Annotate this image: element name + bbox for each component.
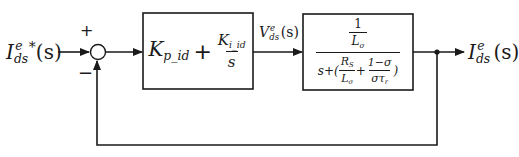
plant-numerator: 1 Lσ [327, 17, 388, 52]
voltage-symbol: V [259, 24, 269, 40]
voltage-subscript: ds [269, 32, 279, 42]
input-star: * [29, 39, 36, 55]
kp-subscript: p_id [163, 48, 189, 63]
plant-den-s-plus: s+( [318, 64, 339, 78]
controller-plus: + [193, 39, 211, 64]
plant-den-plus: + [356, 64, 366, 78]
one-over-L-sigma: 1 Lσ [349, 17, 366, 50]
output-arg: (s) [494, 40, 519, 64]
plant-den-R: R [341, 55, 349, 68]
ki-numerator: Ki_id [216, 31, 248, 51]
plant-den-tau-sub: r [385, 78, 388, 86]
minus-sign: − [78, 64, 93, 82]
voltage-signal-label: Vdse(s) [259, 24, 299, 42]
ki-subscript: i_id [229, 39, 246, 50]
input-superscript: e [15, 38, 22, 53]
kp-symbol: K [148, 37, 163, 61]
plant-block: 1 Lσ s+( RS Lσ + 1−σ στr ) [304, 15, 412, 89]
plant-den-R-sub: S [349, 61, 354, 69]
kp-term: Kp_id [148, 39, 189, 63]
summing-junction [91, 45, 106, 60]
ki-symbol: K [218, 31, 229, 49]
plus-sign: + [80, 23, 93, 39]
output-symbol: I [468, 40, 476, 64]
ki-denominator: s [226, 51, 238, 71]
output-signal-label: Idse(s) [468, 40, 519, 65]
voltage-superscript: e [270, 23, 275, 33]
controller-block: Kp_id + Ki_id s [144, 14, 252, 88]
input-signal-label: Idse*(s) [6, 40, 62, 65]
plant-denominator: s+( RS Lσ + 1−σ στr ) [316, 52, 400, 87]
plant-num-L-sub: σ [359, 41, 364, 50]
plant-den-one-minus-sigma: 1−σ [366, 56, 394, 70]
plant-den-close: ) [393, 64, 398, 78]
ki-fraction: Ki_id s [216, 31, 248, 71]
rs-over-L-sigma: RS Lσ [339, 55, 356, 87]
plant-den-sigma-tau: στ [371, 72, 385, 85]
input-arg: (s) [36, 40, 62, 64]
input-subscript: ds [14, 51, 28, 66]
plant-fraction: 1 Lσ s+( RS Lσ + 1−σ στr ) [316, 17, 400, 86]
output-superscript: e [477, 38, 484, 53]
output-subscript: ds [476, 51, 490, 66]
input-symbol: I [6, 40, 14, 64]
one-minus-sigma-over-sigma-tau: 1−σ στr [366, 56, 394, 86]
plant-den-L: L [341, 72, 348, 85]
plant-den-L-sub: σ [349, 79, 354, 87]
plant-num-one: 1 [352, 17, 364, 32]
voltage-arg: (s) [281, 24, 299, 40]
